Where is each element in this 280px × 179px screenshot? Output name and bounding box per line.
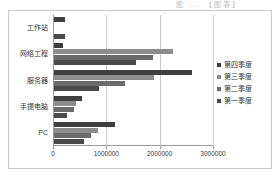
bar-group-3 — [54, 96, 213, 118]
bar-row — [54, 86, 213, 91]
bar-row — [54, 139, 213, 144]
bar-row — [54, 28, 213, 33]
bar-group-0 — [54, 17, 213, 39]
legend-item-1[interactable]: 第三季度 — [217, 71, 271, 83]
bar-group-4 — [54, 122, 213, 144]
chart-frame: 工作站网络工程服务器手提电脑PC 0100000020000003000000 … — [8, 10, 272, 169]
bar-row — [54, 122, 213, 127]
legend-item-0[interactable]: 第四季度 — [217, 59, 271, 71]
bar[interactable] — [54, 133, 91, 138]
plot-inner — [53, 15, 213, 146]
bar-group-1 — [54, 43, 213, 65]
bar-row — [54, 34, 213, 39]
bar-row — [54, 55, 213, 60]
legend-swatch-icon — [217, 63, 221, 67]
legend-label: 第三季度 — [224, 73, 252, 81]
bar[interactable] — [54, 86, 99, 91]
bar[interactable] — [54, 75, 154, 80]
top-caption-text: 图 ... 【图表】 — [176, 0, 280, 8]
legend-item-3[interactable]: 第一季度 — [217, 95, 271, 107]
x-tick-mark-3000000 — [213, 146, 214, 149]
plot-area — [53, 15, 213, 146]
x-axis-line — [53, 145, 213, 146]
bar[interactable] — [54, 81, 125, 86]
bar-row — [54, 75, 213, 80]
legend-swatch-icon — [217, 87, 221, 91]
legend-item-2[interactable]: 第二季度 — [217, 83, 271, 95]
legend-swatch-icon — [217, 99, 221, 103]
bar[interactable] — [54, 139, 84, 144]
x-tick-label-1000000: 1000000 — [94, 150, 119, 157]
bar-row — [54, 128, 213, 133]
bar[interactable] — [54, 43, 63, 48]
bar-row — [54, 107, 213, 112]
bar-row — [54, 43, 213, 48]
legend-label: 第一季度 — [224, 97, 252, 105]
bar-row — [54, 60, 213, 65]
category-label-1: 网络工程 — [20, 50, 48, 58]
bar[interactable] — [54, 107, 74, 112]
bar[interactable] — [54, 34, 65, 39]
bar[interactable] — [54, 55, 153, 60]
x-tick-mark-0 — [53, 146, 54, 149]
bar[interactable] — [54, 96, 82, 101]
legend-label: 第二季度 — [224, 85, 252, 93]
x-axis-tick-labels: 0100000020000003000000 — [53, 150, 213, 162]
bar[interactable] — [54, 128, 98, 133]
category-label-0: 工作站 — [27, 24, 48, 32]
bar-row — [54, 49, 213, 54]
bar-row — [54, 101, 213, 106]
bar-row — [54, 133, 213, 138]
bar-row — [54, 96, 213, 101]
category-label-4: PC — [38, 129, 48, 137]
category-label-2: 服务器 — [27, 77, 48, 85]
gridline-x-3000000 — [213, 15, 214, 146]
bar-row — [54, 81, 213, 86]
x-tick-label-3000000: 3000000 — [200, 150, 225, 157]
bar[interactable] — [54, 60, 136, 65]
bar[interactable] — [54, 122, 115, 127]
bar-row — [54, 23, 213, 28]
bar[interactable] — [54, 70, 192, 75]
y-axis-category-labels: 工作站网络工程服务器手提电脑PC — [9, 15, 51, 146]
bar-row — [54, 70, 213, 75]
x-tick-label-2000000: 2000000 — [147, 150, 172, 157]
bar[interactable] — [54, 101, 76, 106]
bar[interactable] — [54, 49, 173, 54]
legend-label: 第四季度 — [224, 61, 252, 69]
bar-group-2 — [54, 70, 213, 92]
bar-row — [54, 17, 213, 22]
x-tick-label-0: 0 — [51, 150, 55, 157]
bar[interactable] — [54, 113, 67, 118]
category-label-3: 手提电脑 — [20, 103, 48, 111]
legend-swatch-icon — [217, 75, 221, 79]
chart-legend: 第四季度第三季度第二季度第一季度 — [217, 59, 271, 107]
bar[interactable] — [54, 17, 65, 22]
bar-row — [54, 113, 213, 118]
x-tick-mark-1000000 — [106, 146, 107, 149]
x-tick-mark-2000000 — [160, 146, 161, 149]
chart-screenshot: 图 ... 【图表】 工作站网络工程服务器手提电脑PC 010000002000… — [0, 0, 280, 179]
